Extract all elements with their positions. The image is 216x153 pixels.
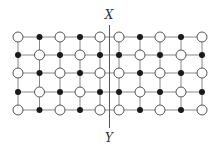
filled-node-icon bbox=[57, 89, 63, 95]
filled-node-icon bbox=[178, 107, 184, 113]
open-node-icon bbox=[95, 68, 105, 78]
filled-node-icon bbox=[37, 70, 43, 76]
open-node-icon bbox=[176, 50, 186, 60]
filled-node-icon bbox=[137, 70, 143, 76]
open-node-icon bbox=[114, 68, 124, 78]
label-y: Y bbox=[105, 131, 114, 145]
open-node-icon bbox=[155, 105, 165, 115]
open-node-icon bbox=[55, 105, 65, 115]
filled-node-icon bbox=[137, 107, 143, 113]
filled-node-icon bbox=[97, 89, 103, 95]
open-node-icon bbox=[197, 32, 207, 42]
filled-node-icon bbox=[37, 34, 43, 40]
open-node-icon bbox=[155, 68, 165, 78]
lattice-diagram: X Y bbox=[0, 0, 216, 153]
filled-node-icon bbox=[57, 52, 63, 58]
open-node-icon bbox=[95, 105, 105, 115]
filled-node-icon bbox=[37, 107, 43, 113]
open-node-icon bbox=[114, 32, 124, 42]
open-node-icon bbox=[135, 87, 145, 97]
filled-node-icon bbox=[15, 52, 21, 58]
open-node-icon bbox=[13, 105, 23, 115]
label-x: X bbox=[104, 8, 114, 22]
filled-node-icon bbox=[77, 107, 83, 113]
filled-node-icon bbox=[116, 89, 122, 95]
filled-node-icon bbox=[199, 89, 205, 95]
filled-node-icon bbox=[97, 52, 103, 58]
open-node-icon bbox=[55, 32, 65, 42]
filled-node-icon bbox=[178, 70, 184, 76]
filled-node-icon bbox=[178, 34, 184, 40]
open-node-icon bbox=[197, 68, 207, 78]
open-node-icon bbox=[95, 32, 105, 42]
open-node-icon bbox=[13, 68, 23, 78]
open-node-icon bbox=[55, 68, 65, 78]
open-node-icon bbox=[155, 32, 165, 42]
open-node-icon bbox=[75, 50, 85, 60]
filled-node-icon bbox=[157, 52, 163, 58]
filled-node-icon bbox=[77, 34, 83, 40]
filled-node-icon bbox=[15, 89, 21, 95]
filled-node-icon bbox=[157, 89, 163, 95]
open-node-icon bbox=[197, 105, 207, 115]
filled-node-icon bbox=[116, 52, 122, 58]
open-node-icon bbox=[13, 32, 23, 42]
open-node-icon bbox=[114, 105, 124, 115]
open-node-icon bbox=[176, 87, 186, 97]
filled-node-icon bbox=[77, 70, 83, 76]
open-node-icon bbox=[135, 50, 145, 60]
filled-node-icon bbox=[199, 52, 205, 58]
open-node-icon bbox=[35, 87, 45, 97]
open-node-icon bbox=[35, 50, 45, 60]
open-node-icon bbox=[75, 87, 85, 97]
filled-node-icon bbox=[137, 34, 143, 40]
